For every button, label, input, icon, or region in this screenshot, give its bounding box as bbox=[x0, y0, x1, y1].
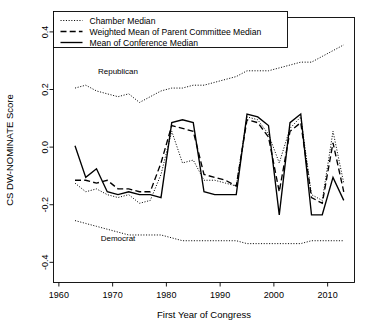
x-tick-label: 1960 bbox=[49, 290, 69, 300]
y-axis-ticks: -0.4-0.20.00.20.4 bbox=[40, 26, 54, 270]
series-weighted-mean-of-parent-committee-median bbox=[75, 120, 344, 204]
y-tick-label: 0.0 bbox=[40, 141, 50, 154]
series-chamber-median bbox=[75, 117, 344, 203]
y-axis-title: CS DW-NOMINATE Score bbox=[4, 94, 15, 206]
plot-frame bbox=[54, 18, 355, 283]
series-mean-of-conference-median bbox=[75, 114, 344, 215]
x-tick-label: 1980 bbox=[156, 290, 176, 300]
annotation-democrat: Democrat bbox=[101, 234, 136, 243]
y-tick-label: -0.4 bbox=[40, 255, 50, 271]
x-tick-label: 1970 bbox=[103, 290, 123, 300]
x-tick-label: 2010 bbox=[318, 290, 338, 300]
legend-label: Weighted Mean of Parent Committee Median bbox=[90, 27, 262, 37]
chart-figure: -0.4-0.20.00.20.4 1960197019801990200020… bbox=[0, 0, 371, 329]
y-tick-label: 0.2 bbox=[40, 83, 50, 96]
x-axis-title: First Year of Congress bbox=[157, 309, 251, 320]
y-tick-label: 0.4 bbox=[40, 26, 50, 39]
annotation-republican: Republican bbox=[98, 67, 138, 76]
legend-label: Chamber Median bbox=[90, 16, 156, 26]
chart-legend: Chamber MedianWeighted Mean of Parent Co… bbox=[54, 12, 288, 48]
plot-annotations: RepublicanDemocrat bbox=[98, 67, 138, 243]
x-tick-label: 2000 bbox=[264, 290, 284, 300]
x-tick-label: 1990 bbox=[210, 290, 230, 300]
y-tick-label: -0.2 bbox=[40, 197, 50, 213]
x-axis-ticks: 196019701980199020002010 bbox=[49, 283, 338, 300]
chart-svg: -0.4-0.20.00.20.4 1960197019801990200020… bbox=[0, 0, 371, 329]
legend-label: Mean of Conference Median bbox=[90, 38, 199, 48]
